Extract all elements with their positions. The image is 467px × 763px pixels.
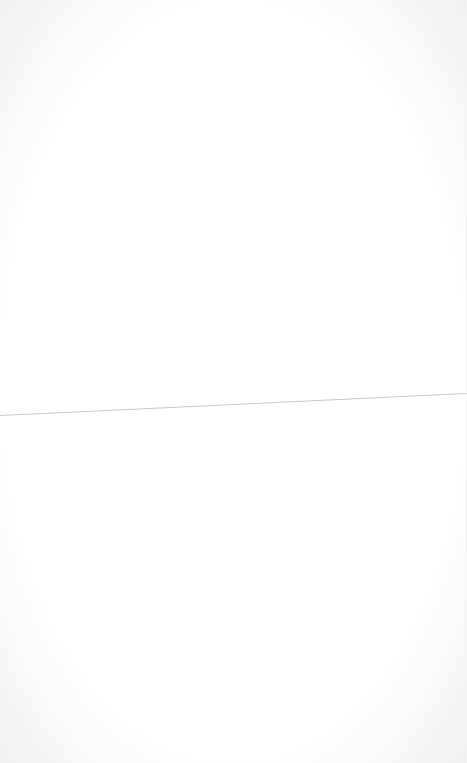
horizontal-divider-line	[0, 393, 467, 416]
